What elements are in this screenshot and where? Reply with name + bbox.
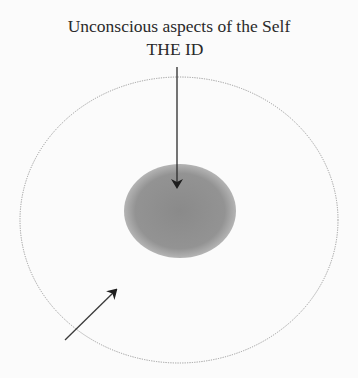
inner-ellipse-id bbox=[124, 164, 236, 258]
arrow-diagonal bbox=[65, 290, 116, 340]
id-diagram bbox=[0, 0, 358, 378]
